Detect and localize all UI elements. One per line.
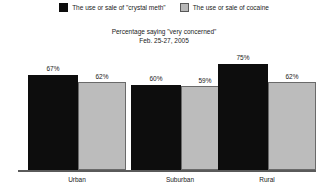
subtitle-line-measure: Percentage saying "very concerned"	[0, 27, 328, 36]
bar-value-label: 62%	[285, 73, 298, 81]
chart-subtitle: Percentage saying "very concerned" Feb. …	[0, 27, 328, 45]
legend-item-cocaine: The use or sale of cocaine	[180, 3, 269, 12]
bar-value-label: 60%	[149, 75, 162, 83]
subtitle-line-date: Feb. 25-27, 2005	[0, 36, 328, 45]
bar-suburban-crystal-meth: 60%	[131, 85, 181, 170]
x-axis-line	[18, 170, 316, 172]
chart-legend: The use or sale of "crystal meth" The us…	[0, 3, 328, 12]
bar-urban-cocaine: 62%	[78, 82, 126, 170]
bar-group-urban: 67% 62%	[28, 50, 126, 170]
bar-value-label: 62%	[95, 73, 108, 81]
bar-value-label: 75%	[236, 54, 249, 62]
legend-item-label: The use or sale of cocaine	[193, 3, 269, 12]
category-label-suburban: Suburban	[131, 175, 229, 184]
plot-area: 67% 62% 60% 59% 75%	[0, 50, 328, 172]
legend-item-label: The use or sale of "crystal meth"	[72, 3, 166, 12]
bar-group-rural: 75% 62%	[218, 50, 316, 170]
bar-group-suburban: 60% 59%	[131, 50, 229, 170]
category-label-urban: Urban	[28, 175, 126, 184]
bar-urban-crystal-meth: 67%	[28, 75, 78, 170]
category-label-rural: Rural	[218, 175, 316, 184]
bar-rural-crystal-meth: 75%	[218, 64, 268, 170]
bar-value-label: 67%	[46, 65, 59, 73]
dark-square-icon	[59, 3, 68, 12]
legend-item-crystal-meth: The use or sale of "crystal meth"	[59, 3, 166, 12]
light-square-icon	[180, 3, 189, 12]
grouped-bar-chart: The use or sale of "crystal meth" The us…	[0, 0, 328, 195]
bar-value-label: 59%	[198, 77, 211, 85]
bar-rural-cocaine: 62%	[268, 82, 316, 170]
